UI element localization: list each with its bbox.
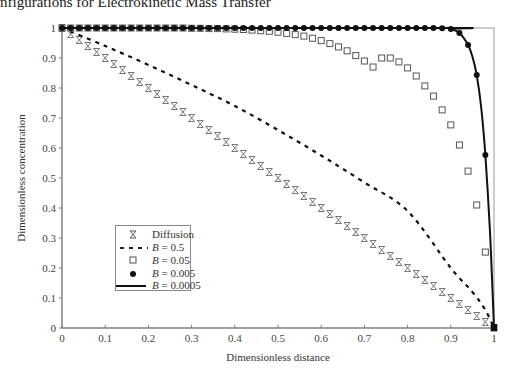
y-tick-label: 0.6	[42, 142, 56, 154]
x-tick-label: 0	[59, 332, 65, 344]
dashed-line-icon	[118, 241, 148, 254]
legend-item-diffusion: Diffusion	[116, 228, 192, 241]
legend-label: = 0.05	[159, 254, 190, 266]
legend-label: = 0.0005	[159, 279, 201, 291]
x-tick-label: 0.7	[358, 332, 372, 344]
y-tick-label: 0.5	[42, 172, 56, 184]
x-tick-label: 0.2	[142, 332, 156, 344]
x-tick-label: 0.8	[401, 332, 415, 344]
legend-label: Diffusion	[152, 228, 194, 241]
legend-var: B	[152, 241, 159, 253]
legend-label: = 0.005	[159, 267, 195, 279]
y-tick-label: 0.1	[42, 292, 56, 304]
y-tick-label: 0.2	[42, 262, 56, 274]
legend-item-b-0-0005: B = 0.0005	[116, 279, 192, 292]
y-tick-label: 0.3	[42, 232, 56, 244]
x-axis-label: Dimensionless distance	[226, 351, 330, 363]
legend-var: B	[152, 267, 159, 279]
y-tick-label: 0.9	[42, 52, 56, 64]
y-tick-label: 0	[51, 322, 57, 334]
y-tick-label: 0.8	[42, 82, 56, 94]
legend-label: = 0.5	[159, 241, 184, 253]
legend-item-b-0-5: B = 0.5	[116, 241, 192, 254]
open-square-icon	[118, 254, 148, 267]
x-tick-label: 1	[491, 332, 497, 344]
axis-ticks: 00.10.20.30.40.50.60.70.80.9100.10.20.30…	[42, 22, 497, 344]
solid-line-icon	[116, 279, 146, 292]
legend-var: B	[152, 279, 159, 291]
x-tick-label: 0.3	[185, 332, 199, 344]
legend-var: B	[152, 254, 159, 266]
asterisk-marker-icon	[118, 228, 148, 241]
x-tick-label: 0.4	[228, 332, 242, 344]
x-tick-label: 0.1	[98, 332, 112, 344]
legend-item-b-0-05: B = 0.05	[116, 254, 192, 267]
y-axis-label: Dimensionless concentration	[15, 114, 27, 242]
x-tick-label: 0.9	[444, 332, 458, 344]
x-tick-label: 0.5	[271, 332, 285, 344]
x-tick-label: 0.6	[314, 332, 328, 344]
y-tick-label: 1	[51, 22, 57, 34]
chart: 00.10.20.30.40.50.60.70.80.9100.10.20.30…	[0, 0, 511, 374]
y-tick-label: 0.7	[42, 112, 56, 124]
y-tick-label: 0.4	[42, 202, 56, 214]
legend: Diffusion B = 0.5 B = 0.05 B = 0.005 B =…	[115, 225, 191, 291]
